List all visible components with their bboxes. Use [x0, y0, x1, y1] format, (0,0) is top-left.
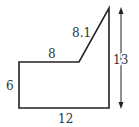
geometry-diagram: 6 8 8.1 12 13: [0, 0, 139, 127]
pentagon-shape: [19, 8, 109, 108]
height-label: 13: [113, 53, 128, 67]
bottom-side-label: 12: [58, 112, 73, 126]
slant-side-label: 8.1: [72, 26, 91, 40]
left-side-label: 6: [6, 79, 14, 93]
top-side-label: 8: [48, 47, 56, 61]
